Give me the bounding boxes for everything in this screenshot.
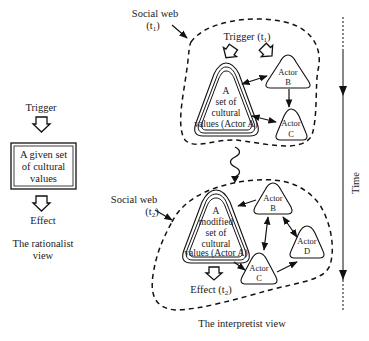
actor-b-t2-line-2: B: [270, 203, 276, 213]
trigger-t1-arrow-icon-left: [219, 42, 240, 62]
actor-a-t1-line-2: set of: [216, 97, 238, 107]
actor-d-t2-line-1: Actor: [297, 236, 317, 246]
arrow-b-c-t2: [264, 217, 268, 250]
actor-a-t2-line-5: values (Actor A): [184, 248, 247, 259]
actor-a-t2-line-1: A: [213, 206, 220, 216]
interpretist-caption: The interpretist view: [198, 318, 286, 329]
effect-t2-label: Effect (t2): [190, 284, 232, 297]
actor-c-t1-line-2: C: [288, 129, 294, 139]
actor-a-t1-line-3: cultural: [211, 108, 240, 118]
rationalist-view: Trigger A given set of cultural values E…: [11, 102, 76, 261]
transition-arrowhead: [231, 176, 239, 183]
actor-d-t2: Actor D: [290, 226, 324, 258]
actor-b-t2-line-1: Actor: [263, 193, 283, 203]
actor-b-t1-line-2: B: [285, 77, 291, 87]
social-web-t2-time: (t2): [145, 206, 159, 219]
arrow-a-b-t1: [242, 76, 267, 84]
box-line-1: A given set: [20, 149, 67, 160]
social-web-t2: Social web (t2) A modified set of cultur…: [111, 180, 333, 310]
time-axis-label: Time: [350, 172, 361, 194]
time-axis-arrowhead-bottom: [339, 270, 347, 280]
actor-a-t2: A modified set of cultural values (Actor…: [183, 190, 250, 263]
time-axis: Time: [339, 17, 361, 312]
transition-squiggle: [231, 147, 240, 177]
actor-a-t2-line-3: set of: [206, 228, 228, 238]
actor-c-t1-line-1: Actor: [281, 118, 301, 128]
actor-b-t1: Actor B: [266, 55, 310, 88]
web-t1-pointer-arrow: [172, 25, 187, 38]
actor-a-t1-line-1: A: [223, 86, 230, 96]
rationalist-caption-line-1: The rationalist: [13, 238, 74, 249]
box-line-2: of cultural: [22, 161, 66, 172]
actor-c-t1: Actor C: [276, 109, 307, 140]
actor-a-t1-line-4: values (Actor A): [194, 119, 257, 130]
effect-t2-arrow-icon: [206, 267, 222, 280]
actor-a-t2-line-2: modified: [199, 217, 234, 227]
rationalist-trigger-label: Trigger: [25, 102, 57, 113]
rationalist-caption-line-2: view: [33, 250, 54, 261]
arrow-c-d-t2: [277, 262, 297, 272]
time-axis-arrowhead-top: [339, 86, 347, 96]
actor-a-t1: A set of cultural values (Actor A): [194, 63, 258, 136]
box-line-3: values: [30, 173, 57, 184]
social-web-t1: Social web (t1) Trigger (t1) A set of cu…: [132, 8, 319, 146]
social-web-t1-time: (t1): [146, 20, 160, 33]
actor-c-t2-line-2: C: [256, 273, 262, 283]
trigger-arrow-icon: [33, 117, 50, 132]
social-web-t1-label: Social web: [132, 8, 178, 19]
effect-arrow-icon: [33, 196, 50, 211]
trigger-t1-label: Trigger (t1): [223, 31, 271, 44]
trigger-t1-arrow-icon-right: [257, 41, 278, 62]
actor-c-t2-line-1: Actor: [249, 263, 269, 273]
actor-d-t2-line-2: D: [304, 246, 310, 256]
rationalist-effect-label: Effect: [30, 215, 56, 226]
arrow-b-a-t2: [238, 200, 256, 206]
social-web-t2-label: Social web: [111, 194, 157, 205]
arrow-b-d-t2: [283, 217, 297, 237]
diagram-canvas: Trigger A given set of cultural values E…: [0, 0, 369, 341]
actor-b-t1-line-1: Actor: [278, 67, 298, 77]
actor-b-t2: Actor B: [254, 183, 292, 214]
